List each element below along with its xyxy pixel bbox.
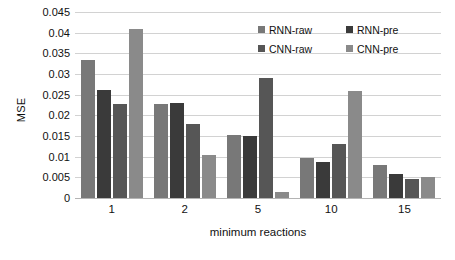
bar [259, 78, 273, 198]
bar [97, 90, 111, 198]
y-axis-tick-label: 0.045 [20, 7, 70, 18]
legend-label: CNN-raw [269, 43, 312, 55]
bar [186, 124, 200, 198]
chart-legend: RNN-rawRNN-preCNN-rawCNN-pre [258, 20, 434, 58]
x-axis-tick-label: 5 [221, 201, 294, 217]
legend-item: RNN-pre [346, 24, 434, 36]
legend-item: CNN-raw [258, 43, 346, 55]
y-axis-tick-label: 0.035 [20, 48, 70, 59]
x-axis-tick-label: 2 [148, 201, 221, 217]
legend-label: RNN-raw [269, 24, 312, 36]
x-axis-tick-label: 10 [295, 201, 368, 217]
x-axis-title: minimum reactions [75, 226, 441, 238]
bar [170, 103, 184, 198]
y-axis-tick-label: 0.03 [20, 69, 70, 80]
bar-group [75, 12, 148, 198]
bar [300, 158, 314, 198]
bar [81, 60, 95, 198]
x-axis-tick-labels: 1251015 [75, 201, 441, 217]
legend-label: CNN-pre [357, 43, 398, 55]
bar-group [148, 12, 221, 198]
legend-swatch-icon [258, 45, 265, 52]
bar [129, 29, 143, 198]
bar [275, 192, 289, 198]
y-axis-tick-label: 0.04 [20, 27, 70, 38]
bar [348, 91, 362, 198]
x-axis-tick-label: 1 [75, 201, 148, 217]
legend-item: CNN-pre [346, 43, 434, 55]
legend-item: RNN-raw [258, 24, 346, 36]
bar [202, 155, 216, 198]
legend-label: RNN-pre [357, 24, 398, 36]
axis-baseline [75, 198, 441, 199]
legend-swatch-icon [346, 26, 353, 33]
x-axis-tick-label: 15 [368, 201, 441, 217]
bar [373, 165, 387, 198]
bar [113, 104, 127, 198]
bar [421, 177, 435, 198]
bar [154, 104, 168, 198]
y-axis-tick-label: 0 [20, 193, 70, 204]
y-axis-tick-label: 0.015 [20, 131, 70, 142]
y-axis-tick-label: 0.025 [20, 89, 70, 100]
bar [332, 144, 346, 198]
y-axis-tick-label: 0.02 [20, 110, 70, 121]
bar [389, 174, 403, 198]
legend-swatch-icon [346, 45, 353, 52]
y-axis-tick-label: 0.005 [20, 172, 70, 183]
bar [227, 135, 241, 198]
legend-swatch-icon [258, 26, 265, 33]
bar [316, 162, 330, 198]
bar [243, 136, 257, 198]
bar [405, 179, 419, 198]
y-axis-tick-label: 0.01 [20, 151, 70, 162]
y-axis-tick-labels: 0.0450.040.0350.030.0250.020.0150.010.00… [20, 12, 70, 198]
bar-chart: MSE 0.0450.040.0350.030.0250.020.0150.01… [0, 0, 455, 260]
